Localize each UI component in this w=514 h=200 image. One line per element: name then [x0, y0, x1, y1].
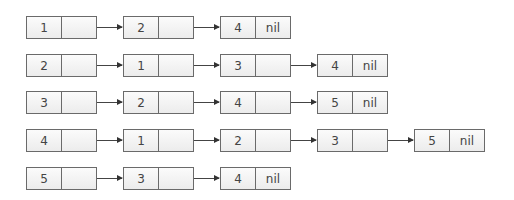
- pointer-arrow: [291, 65, 316, 66]
- pointer-arrow: [97, 178, 122, 179]
- node-pointer: [159, 130, 193, 151]
- head-node: 5: [26, 167, 97, 190]
- pointer-arrow: [194, 65, 219, 66]
- node-pointer: [159, 92, 193, 113]
- node-value: 4: [318, 55, 353, 76]
- node-value: 5: [318, 92, 353, 113]
- node-pointer: [62, 130, 96, 151]
- node-value: 4: [221, 92, 256, 113]
- pointer-arrow: [291, 102, 316, 103]
- node-pointer: nil: [353, 55, 387, 76]
- node-pointer: [256, 55, 290, 76]
- node-value: 1: [124, 130, 159, 151]
- list-node: 1: [123, 54, 194, 77]
- list-node: 3: [123, 167, 194, 190]
- node-value: 4: [221, 168, 256, 189]
- list-node: 2: [123, 91, 194, 114]
- list-node: 4nil: [220, 167, 291, 190]
- pointer-arrow: [291, 140, 316, 141]
- node-value: 3: [27, 92, 62, 113]
- node-pointer: [159, 17, 193, 38]
- node-value: 3: [318, 130, 353, 151]
- head-node: 1: [26, 16, 97, 39]
- pointer-arrow: [97, 102, 122, 103]
- list-node: 2: [123, 16, 194, 39]
- head-node: 4: [26, 129, 97, 152]
- node-pointer: [256, 130, 290, 151]
- list-node: 5nil: [317, 91, 388, 114]
- node-value: 2: [124, 17, 159, 38]
- node-value: 4: [221, 17, 256, 38]
- node-pointer: [62, 17, 96, 38]
- list-node: 4nil: [220, 16, 291, 39]
- node-value: 2: [27, 55, 62, 76]
- list-node: 5nil: [414, 129, 485, 152]
- node-value: 1: [124, 55, 159, 76]
- node-pointer: [159, 168, 193, 189]
- pointer-arrow: [194, 140, 219, 141]
- node-pointer: [353, 130, 387, 151]
- list-node: 1: [123, 129, 194, 152]
- node-pointer: [62, 168, 96, 189]
- pointer-arrow: [194, 178, 219, 179]
- node-pointer: [62, 92, 96, 113]
- node-value: 1: [27, 17, 62, 38]
- node-pointer: nil: [256, 168, 290, 189]
- list-node: 4nil: [317, 54, 388, 77]
- pointer-arrow: [388, 140, 413, 141]
- node-pointer: [62, 55, 96, 76]
- head-node: 2: [26, 54, 97, 77]
- node-pointer: [256, 92, 290, 113]
- node-value: 5: [27, 168, 62, 189]
- pointer-arrow: [194, 27, 219, 28]
- node-pointer: nil: [450, 130, 484, 151]
- head-node: 3: [26, 91, 97, 114]
- pointer-arrow: [97, 140, 122, 141]
- list-node: 3: [317, 129, 388, 152]
- node-value: 2: [221, 130, 256, 151]
- node-pointer: [159, 55, 193, 76]
- node-value: 3: [124, 168, 159, 189]
- node-value: 2: [124, 92, 159, 113]
- list-node: 2: [220, 129, 291, 152]
- node-value: 3: [221, 55, 256, 76]
- pointer-arrow: [97, 27, 122, 28]
- node-pointer: nil: [256, 17, 290, 38]
- pointer-arrow: [194, 102, 219, 103]
- list-node: 4: [220, 91, 291, 114]
- pointer-arrow: [97, 65, 122, 66]
- node-value: 4: [27, 130, 62, 151]
- list-node: 3: [220, 54, 291, 77]
- node-pointer: nil: [353, 92, 387, 113]
- node-value: 5: [415, 130, 450, 151]
